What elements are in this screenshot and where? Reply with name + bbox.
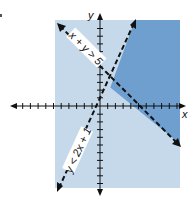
corner-mark — [0, 14, 2, 17]
x-axis-label: x — [181, 108, 188, 120]
y-axis-label: y — [87, 9, 95, 21]
inequality-graph: x + y > 5 y < 2x + 1 x y — [0, 0, 193, 200]
